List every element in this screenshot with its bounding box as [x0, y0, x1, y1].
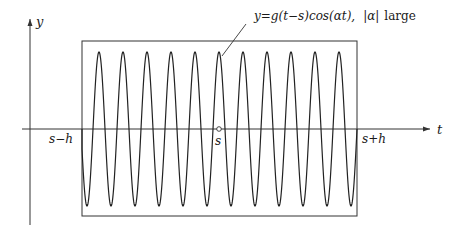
annotation-condition-word: large: [384, 9, 416, 23]
oscillation-diagram: y t s−h s s+h y=g(t−s)cos(αt), |α| large: [0, 0, 464, 236]
annotation-label: y=g(t−s)cos(αt), |α| large: [253, 9, 416, 23]
center-marker-icon: [217, 127, 222, 132]
x-axis-label: t: [437, 122, 443, 137]
annotation-formula: y=g(t−s)cos(αt),: [253, 9, 355, 23]
y-axis-label: y: [35, 14, 44, 29]
tick-label-center: s: [215, 134, 221, 148]
annotation-condition-prefix: |α|: [363, 9, 379, 23]
annotation-leader-line: [222, 24, 246, 56]
tick-label-right: s+h: [362, 132, 386, 146]
tick-label-left: s−h: [49, 132, 73, 146]
